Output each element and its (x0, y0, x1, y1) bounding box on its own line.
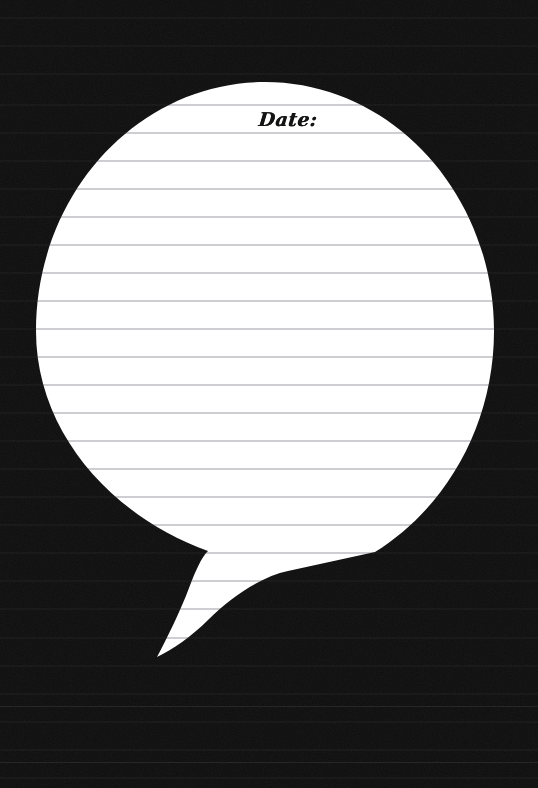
date-label: Date: (0, 108, 538, 130)
note-page: Date: (0, 0, 538, 788)
